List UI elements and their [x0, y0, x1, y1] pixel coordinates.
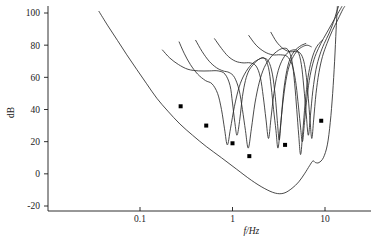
chart-svg: 100806040200-20 0.1110 dB f/Hz: [0, 0, 376, 239]
y-tick-label: 60: [31, 73, 41, 83]
x-tick-label: 10: [320, 214, 330, 224]
curve-threshold-curve-5: [249, 7, 342, 142]
x-tick-label: 1: [230, 214, 235, 224]
data-point-marker: [319, 119, 323, 123]
y-tick-label: 0: [35, 169, 40, 179]
axes-group: [48, 6, 371, 211]
y-tick-label: 80: [31, 41, 41, 51]
y-tick-label: 100: [26, 8, 41, 18]
data-point-marker: [231, 141, 235, 145]
data-point-marker: [247, 154, 251, 158]
y-tick-label: 40: [31, 105, 41, 115]
data-point-marker: [179, 104, 183, 108]
curve-lower-envelope-curve: [99, 7, 337, 194]
data-point-marker: [204, 124, 208, 128]
x-axis-ticks: 0.1110: [134, 207, 330, 224]
y-axis-title: dB: [6, 107, 16, 118]
y-tick-label: -20: [27, 201, 40, 211]
x-tick-label: 0.1: [134, 214, 146, 224]
y-axis-ticks: 100806040200-20: [26, 8, 48, 211]
curve-threshold-curve-4: [215, 7, 339, 139]
x-axis-title: f/Hz: [243, 226, 259, 236]
y-tick-label: 20: [31, 137, 41, 147]
chart-figure: 100806040200-20 0.1110 dB f/Hz: [0, 0, 376, 239]
data-point-marker: [283, 143, 287, 147]
curve-series-group: [99, 7, 345, 194]
